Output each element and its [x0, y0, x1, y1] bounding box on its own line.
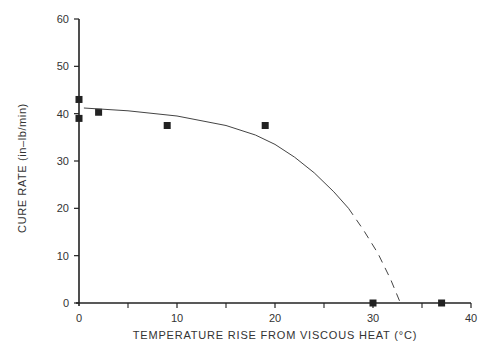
y-tick-label: 50 [57, 60, 69, 72]
x-axis-label: TEMPERATURE RISE FROM VISCOUS HEAT (°C) [133, 329, 417, 341]
axes: 0102030405060010203040 [57, 13, 477, 324]
y-tick-label: 0 [63, 297, 69, 309]
data-point-square [262, 122, 269, 129]
y-tick-label: 40 [57, 108, 69, 120]
plot-area [76, 96, 446, 307]
y-tick-label: 10 [57, 250, 69, 262]
x-tick-label: 10 [171, 312, 183, 324]
y-tick-label: 60 [57, 13, 69, 25]
y-tick-label: 20 [57, 202, 69, 214]
x-tick-label: 30 [367, 312, 379, 324]
cure-rate-chart: 0102030405060010203040 CURE RATE (in–lb/… [0, 0, 491, 357]
x-axis-label-unit: °C) [399, 329, 417, 341]
fit-curve-dashed [349, 208, 401, 303]
y-axis-label: CURE RATE (in–lb/min) [16, 103, 28, 233]
fit-curve-solid [84, 108, 349, 208]
data-point-square [95, 109, 102, 116]
x-tick-label: 0 [76, 312, 82, 324]
data-point-square [164, 122, 171, 129]
x-tick-label: 20 [269, 312, 281, 324]
y-tick-label: 30 [57, 155, 69, 167]
x-axis-label-main: TEMPERATURE RISE FROM VISCOUS HEAT ( [133, 329, 399, 341]
x-tick-label: 40 [465, 312, 477, 324]
